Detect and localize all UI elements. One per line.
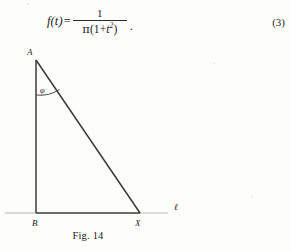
equation-block: f(t) = 1 π(1+t2) . (3) [0, 6, 291, 42]
label-vertex-b: B [32, 218, 38, 228]
hypotenuse-ax [36, 60, 140, 213]
label-point-x: X [134, 218, 141, 228]
pi-symbol: π [82, 21, 90, 35]
label-apex-a: A [26, 47, 33, 57]
equation-number: (3) [272, 16, 285, 28]
equals-sign: = [64, 14, 71, 29]
fraction-denominator: π(1+t2) [80, 21, 119, 36]
triangle-diagram: A B X ℓ φ [0, 40, 291, 251]
figure-14: A B X ℓ φ Fig. 14 [0, 40, 291, 251]
fraction-numerator: 1 [91, 8, 109, 20]
cauchy-density-formula: f(t) = 1 π(1+t2) . [47, 8, 133, 36]
fraction: 1 π(1+t2) [73, 8, 127, 36]
scan-speck [27, 3, 29, 5]
label-line-ell: ℓ [174, 202, 178, 212]
scan-speck [251, 196, 253, 198]
formula-period: . [130, 19, 133, 36]
figure-caption: Fig. 14 [58, 230, 118, 241]
document-page: f(t) = 1 π(1+t2) . (3) [0, 0, 291, 251]
label-angle-phi: φ [40, 85, 45, 95]
formula-left-hand-side: f(t) [47, 14, 63, 29]
denominator-open-paren: (1 [90, 22, 100, 34]
scan-speck [213, 62, 215, 64]
denominator-close-paren: ) [113, 22, 117, 34]
